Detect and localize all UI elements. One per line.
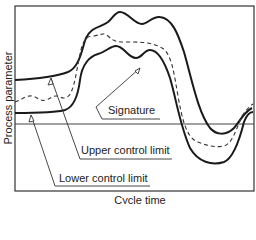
upper-limit-arrowhead — [48, 78, 53, 85]
signature-arrowhead — [135, 68, 140, 74]
upper-control-limit-label: Upper control limit — [81, 144, 170, 157]
signature-curve — [15, 34, 253, 147]
signature-label: Signature — [108, 104, 155, 117]
y-axis-label: Process parameter — [1, 43, 15, 153]
lower-control-limit-label: Lower control limit — [59, 172, 148, 185]
lower-limit-arrowhead — [29, 115, 34, 122]
x-axis-label: Cycle time — [95, 193, 185, 204]
